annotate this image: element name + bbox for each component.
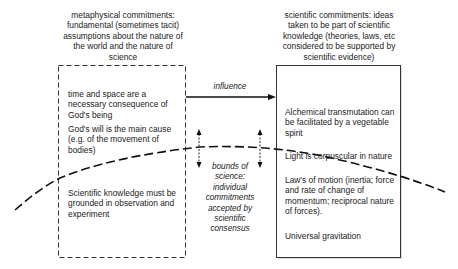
metaphysical-item: God's will is the main cause (e.g. of th… [68, 124, 184, 155]
scientific-heading: scientific commitments: ideas taken to b… [275, 10, 403, 62]
metaphysical-item: time and space are a necessary consequen… [68, 89, 180, 120]
scientific-item: Alchemical transmutation can be facilita… [285, 107, 399, 138]
influence-label: influence [198, 82, 262, 92]
scientific-item: Law's of motion (inertia; force and rate… [285, 175, 397, 217]
metaphysical-heading: metaphysical commitments: fundamental (s… [58, 10, 188, 62]
metaphysical-item: Scientific knowledge must be grounded in… [68, 188, 184, 219]
arrow-head-icon [268, 94, 276, 100]
scientific-item: Universal gravitation [285, 231, 397, 241]
scientific-box [277, 66, 401, 258]
bounds-label: bounds of science: individual commitment… [197, 162, 263, 235]
scientific-item: Light is corpuscular in nature [285, 151, 399, 161]
